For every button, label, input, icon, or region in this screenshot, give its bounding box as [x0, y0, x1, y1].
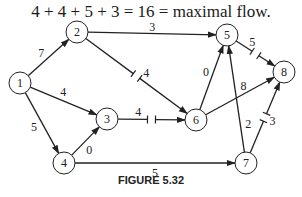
node-5: 5 — [216, 24, 238, 46]
edge-capacity-label: 2 — [245, 117, 251, 131]
edge-capacity-label: 4 — [60, 85, 66, 99]
node-3: 3 — [96, 108, 118, 130]
node-label: 5 — [224, 28, 230, 42]
node-label: 8 — [281, 65, 287, 79]
cut-marker — [250, 48, 254, 55]
node-8: 8 — [273, 61, 295, 83]
edge-capacity-label: 0 — [203, 65, 209, 79]
node-label: 7 — [243, 156, 249, 170]
node-6: 6 — [185, 109, 207, 131]
node-7: 7 — [235, 152, 257, 174]
cut-marker — [137, 75, 142, 81]
node-label: 3 — [104, 112, 110, 126]
edge-capacity-label: 7 — [38, 46, 44, 60]
edge-2-5: 3 — [88, 20, 216, 35]
edge-5-8: 5 — [236, 35, 275, 66]
edge-capacity-label: 0 — [86, 143, 92, 157]
edge-capacity-label: 8 — [241, 79, 247, 93]
edge-capacity-label: 4 — [143, 66, 149, 80]
edge-4-3: 0 — [72, 127, 100, 157]
cut-marker — [257, 52, 261, 59]
edge-capacity-label: 5 — [249, 35, 255, 49]
edge-6-5: 0 — [200, 45, 223, 109]
edge-6-8: 8 — [206, 77, 275, 114]
edge-capacity-label: 3 — [269, 114, 275, 128]
cut-marker — [131, 70, 136, 76]
edge-1-2: 7 — [28, 39, 69, 75]
edge-1-4: 5 — [25, 93, 58, 154]
node-label: 2 — [74, 25, 80, 39]
node-4: 4 — [53, 152, 75, 174]
node-2: 2 — [66, 21, 88, 43]
edge-7-8: 3 — [250, 82, 280, 153]
edge-1-3: 4 — [30, 85, 97, 115]
flow-network-diagram: 7453440508253 12345678 — [0, 0, 302, 197]
edge-3-6: 4 — [118, 105, 185, 123]
node-label: 1 — [17, 76, 23, 90]
node-label: 6 — [193, 113, 199, 127]
edge-capacity-label: 4 — [135, 105, 141, 119]
node-1: 1 — [9, 72, 31, 94]
edge-7-5: 2 — [229, 46, 252, 152]
edge-2-6: 4 — [86, 39, 187, 114]
figure-caption: FIGURE 5.32 — [0, 174, 302, 186]
edge-capacity-label: 5 — [31, 120, 37, 134]
node-label: 4 — [61, 156, 67, 170]
edge-capacity-label: 3 — [149, 20, 155, 34]
